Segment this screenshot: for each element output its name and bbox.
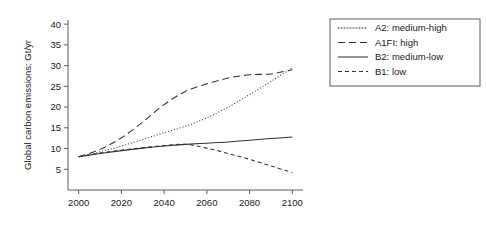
x-axis: 200020202040206020802100 bbox=[68, 190, 303, 208]
y-axis: 510152025303540 bbox=[50, 19, 68, 190]
y-tick-label: 5 bbox=[56, 164, 61, 175]
legend-label-1: A1FI: high bbox=[375, 37, 418, 48]
series-line-2 bbox=[79, 137, 293, 157]
x-tick-group: 200020202040206020802100 bbox=[68, 190, 303, 208]
y-tick-label: 35 bbox=[50, 39, 61, 50]
y-tick-label: 15 bbox=[50, 122, 61, 133]
x-tick-label: 2020 bbox=[111, 197, 132, 208]
x-tick-label: 2080 bbox=[239, 197, 260, 208]
y-axis-title: Global carbon emissions: Gt/yr bbox=[22, 40, 33, 170]
legend-label-2: B2: medium-low bbox=[375, 51, 443, 62]
chart-container: 510152025303540 200020202040206020802100… bbox=[0, 0, 486, 230]
y-tick-label: 30 bbox=[50, 60, 61, 71]
series-group bbox=[79, 68, 293, 172]
x-tick-label: 2060 bbox=[196, 197, 217, 208]
chart-legend: A2: medium-highA1FI: highB2: medium-lowB… bbox=[330, 19, 480, 86]
x-tick-label: 2000 bbox=[68, 197, 89, 208]
y-tick-label: 25 bbox=[50, 81, 61, 92]
y-tick-label: 40 bbox=[50, 19, 61, 30]
y-tick-group: 510152025303540 bbox=[50, 19, 68, 175]
x-tick-label: 2040 bbox=[154, 197, 175, 208]
y-tick-label: 10 bbox=[50, 143, 61, 154]
series-line-1 bbox=[79, 70, 293, 157]
legend-label-3: B1: low bbox=[375, 66, 406, 77]
line-chart: 510152025303540 200020202040206020802100… bbox=[0, 0, 486, 230]
x-tick-label: 2100 bbox=[282, 197, 303, 208]
y-tick-label: 20 bbox=[50, 101, 61, 112]
legend-label-0: A2: medium-high bbox=[375, 22, 447, 33]
